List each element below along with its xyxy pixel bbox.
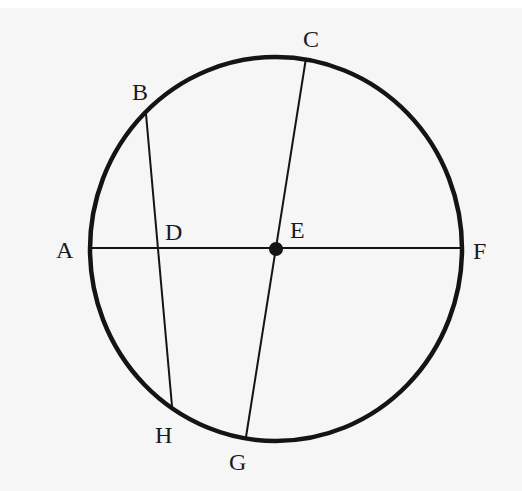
label-A: A bbox=[56, 237, 74, 263]
label-G: G bbox=[229, 449, 246, 475]
label-H: H bbox=[155, 422, 172, 448]
center-point-E bbox=[269, 242, 283, 256]
label-F: F bbox=[473, 238, 486, 264]
diagram-canvas: A B C D E F H G bbox=[0, 0, 522, 491]
label-E: E bbox=[290, 217, 305, 243]
circle-diagram: A B C D E F H G bbox=[0, 0, 522, 491]
label-D: D bbox=[165, 219, 182, 245]
chord-BH bbox=[146, 114, 172, 406]
label-C: C bbox=[303, 26, 319, 52]
label-B: B bbox=[132, 79, 148, 105]
